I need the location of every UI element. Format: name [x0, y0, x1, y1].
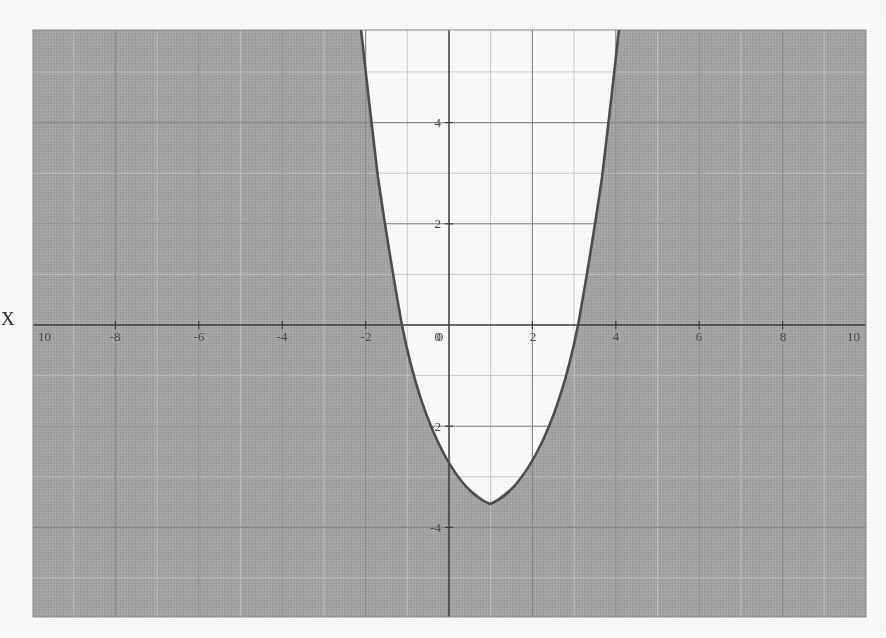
y-tick-label: 0: [435, 329, 442, 344]
y-tick-label: 2: [435, 216, 442, 231]
y-tick-label: 4: [435, 115, 442, 130]
y-tick-label: -2: [430, 419, 441, 434]
x-axis-label: X: [1, 308, 15, 330]
parabola-plot: 10 -8 -6 -4 -2 0 2 4 6 8 10 4 2 0 -2 -4: [0, 0, 886, 638]
x-tick-label: 10: [38, 329, 51, 344]
y-tick-label: -4: [430, 520, 441, 535]
x-tick-label: -8: [110, 329, 121, 344]
x-tick-label: 8: [780, 329, 787, 344]
x-tick-label: 2: [530, 329, 537, 344]
x-tick-label: -6: [194, 329, 205, 344]
x-tick-label: -2: [361, 329, 372, 344]
x-tick-label: 10: [847, 329, 860, 344]
x-tick-label: 6: [696, 329, 703, 344]
x-tick-label: 4: [613, 329, 620, 344]
x-tick-label: -4: [277, 329, 288, 344]
graph-figure: X: [0, 0, 886, 638]
